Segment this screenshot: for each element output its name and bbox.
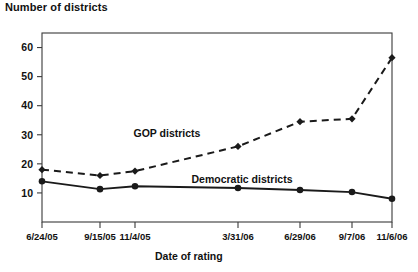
data-point-marker: [235, 185, 242, 192]
series-label-2: Democratic districts: [192, 173, 293, 185]
line-chart: 102030405060 6/24/059/15/0511/4/053/31/0…: [0, 0, 418, 272]
y-axis-ticks: 102030405060: [21, 41, 42, 198]
x-axis-tick-label: 3/31/06: [222, 231, 254, 242]
data-point-marker: [348, 115, 355, 122]
chart-page: Number of districts 102030405060 6/24/05…: [0, 0, 418, 272]
data-point-marker: [131, 168, 138, 175]
series-line-1: [42, 58, 392, 176]
x-axis-tick-label: 6/29/06: [284, 231, 316, 242]
x-axis-title: Date of rating: [155, 250, 223, 262]
data-point-marker: [97, 186, 104, 193]
data-point-marker: [38, 166, 45, 173]
x-axis-tick-label: 9/7/06: [339, 231, 365, 242]
plot-frame: [42, 33, 392, 222]
data-point-marker: [96, 172, 103, 179]
x-axis-tick-label: 11/6/06: [376, 231, 407, 242]
data-point-marker: [296, 118, 303, 125]
y-axis-tick-label: 10: [21, 187, 33, 199]
x-axis-tick-label: 6/24/05: [26, 231, 58, 242]
x-axis-ticks: 6/24/059/15/0511/4/053/31/066/29/069/7/0…: [26, 222, 407, 242]
y-axis-tick-label: 30: [21, 129, 33, 141]
y-axis-tick-label: 20: [21, 158, 33, 170]
y-axis-tick-label: 40: [21, 99, 33, 111]
data-point-marker: [39, 178, 46, 185]
data-point-marker: [132, 183, 139, 190]
data-point-marker: [234, 143, 241, 150]
y-axis-tick-label: 50: [21, 70, 33, 82]
x-axis-tick-label: 11/4/05: [119, 231, 151, 242]
y-axis-tick-label: 60: [21, 41, 33, 53]
series-label-1: GOP districts: [134, 127, 201, 139]
x-axis-tick-label: 9/15/05: [84, 231, 116, 242]
data-point-marker: [297, 187, 304, 194]
data-point-marker: [349, 189, 356, 196]
series-annotations: GOP districtsDemocratic districts: [134, 127, 293, 185]
data-point-marker: [389, 195, 396, 202]
